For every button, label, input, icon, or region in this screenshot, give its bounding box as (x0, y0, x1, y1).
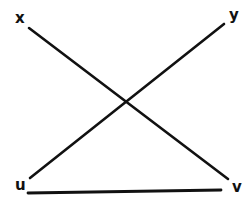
segment-u-to-v (28, 190, 221, 193)
label-y: y (229, 8, 239, 23)
label-v: v (232, 180, 242, 195)
label-u: u (15, 178, 26, 193)
diagram-canvas: x y u v (0, 0, 250, 203)
label-x: x (15, 11, 25, 26)
diagram-svg (0, 0, 250, 203)
